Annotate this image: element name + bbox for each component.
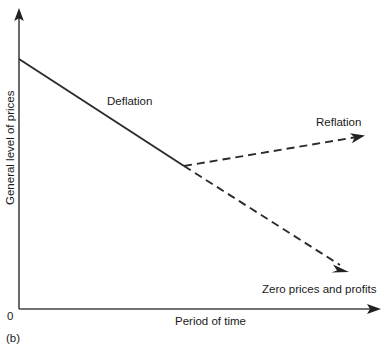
origin-label: 0 — [7, 310, 13, 322]
series-line-deflation — [19, 59, 184, 166]
series-line-zero-prices — [184, 166, 340, 265]
zero-prices-arrowhead — [331, 265, 349, 273]
series-label-reflation: Reflation — [316, 116, 361, 128]
figure-container: Deflation Reflation Zero prices and prof… — [0, 0, 389, 347]
line-chart: Deflation Reflation Zero prices and prof… — [0, 0, 389, 347]
series-line-reflation — [184, 137, 357, 166]
x-axis-title: Period of time — [175, 315, 246, 327]
figure-caption: (b) — [6, 332, 20, 344]
y-axis-title: General level of prices — [4, 90, 16, 205]
series-label-deflation: Deflation — [107, 95, 152, 107]
series-label-zero-prices: Zero prices and profits — [262, 283, 377, 295]
